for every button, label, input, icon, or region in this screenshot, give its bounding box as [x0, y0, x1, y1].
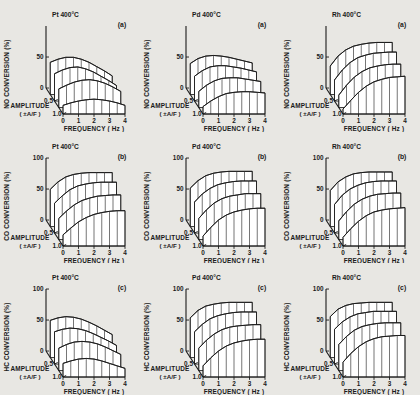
x-axis-title: FREQUENCY ( Hz ): [344, 125, 405, 132]
amplitude-tick-label: 1.0: [193, 373, 202, 380]
x-tick-label: 1: [357, 117, 361, 124]
amplitude-axis-title: AMPLITUDE: [10, 102, 50, 109]
x-tick-label: 2: [372, 380, 376, 387]
chart-panel-b3: 050100012340.51.0CO CONVERSION (%)Rh 400…: [280, 132, 420, 264]
amplitude-tick-label: 1.0: [333, 110, 342, 117]
y-tick-label: 50: [316, 53, 324, 60]
x-tick-label: 2: [92, 117, 96, 124]
amplitude-axis-title: AMPLITUDE: [10, 365, 50, 372]
x-axis-title: FREQUENCY ( Hz ): [64, 256, 125, 263]
chart-panel-a3: 050012340.51.0NO CONVERSION (%)Rh 400°C(…: [280, 0, 420, 132]
y-tick-label: 0: [180, 216, 184, 223]
catalyst-condition-label: Pd 400°C: [192, 274, 221, 281]
y-tick-label: 100: [173, 286, 184, 293]
catalyst-condition-label: Pd 400°C: [192, 143, 221, 150]
catalyst-condition-label: Pd 400°C: [192, 11, 221, 18]
y-tick-label: 50: [176, 185, 184, 192]
x-axis-title: FREQUENCY ( Hz ): [344, 256, 405, 263]
x-tick-label: 4: [263, 249, 267, 256]
y-tick-label: 50: [316, 317, 324, 324]
y-tick-label: 0: [180, 348, 184, 355]
amplitude-axis-title: AMPLITUDE: [150, 234, 190, 241]
x-tick-label: 4: [123, 117, 127, 124]
x-axis-title: FREQUENCY ( Hz ): [344, 388, 405, 395]
y-tick-label: 0: [40, 216, 44, 223]
chart-panel-c1: 050100012340.51.0HC CONVERSION (%)Pt 400…: [0, 263, 140, 395]
amplitude-axis-title: AMPLITUDE: [150, 102, 190, 109]
amplitude-axis-unit: ( ±A/F ): [20, 241, 41, 248]
y-axis-title: CO CONVERSION (%): [143, 171, 151, 240]
y-tick-label: 50: [176, 53, 184, 60]
x-tick-label: 1: [77, 380, 81, 387]
chart-panel-a1: 050012340.51.0NO CONVERSION (%)Pt 400°C(…: [0, 0, 140, 132]
x-tick-label: 0: [341, 249, 345, 256]
y-axis-title: NO CONVERSION (%): [3, 39, 11, 108]
x-tick-label: 1: [217, 249, 221, 256]
amplitude-tick-label: 1.0: [193, 241, 202, 248]
x-tick-label: 0: [61, 117, 65, 124]
y-tick-label: 100: [33, 154, 44, 161]
x-tick-label: 3: [108, 117, 112, 124]
panel-letter-label: (a): [398, 21, 406, 29]
amplitude-axis-title: AMPLITUDE: [290, 365, 330, 372]
chart-panel-c2: 050100012340.51.0HC CONVERSION (%)Pd 400…: [140, 263, 280, 395]
x-tick-label: 4: [403, 380, 407, 387]
y-axis-title: HC CONVERSION (%): [283, 303, 291, 372]
x-tick-label: 0: [201, 249, 205, 256]
x-tick-label: 0: [201, 380, 205, 387]
panel-letter-label: (b): [258, 153, 267, 161]
x-tick-label: 4: [403, 117, 407, 124]
panel-letter-label: (c): [398, 284, 406, 292]
y-tick-label: 100: [313, 286, 324, 293]
y-axis-title: HC CONVERSION (%): [143, 303, 151, 372]
x-tick-label: 4: [403, 249, 407, 256]
x-tick-label: 3: [248, 249, 252, 256]
amplitude-tick-label: 1.0: [333, 373, 342, 380]
y-tick-label: 0: [320, 84, 324, 91]
y-axis-title: CO CONVERSION (%): [3, 171, 11, 240]
x-tick-label: 2: [92, 380, 96, 387]
x-tick-label: 3: [108, 249, 112, 256]
y-tick-label: 100: [33, 286, 44, 293]
chart-panel-b1: 050100012340.51.0CO CONVERSION (%)Pt 400…: [0, 132, 140, 264]
x-tick-label: 0: [201, 117, 205, 124]
chart-panel-b2: 050100012340.51.0CO CONVERSION (%)Pd 400…: [140, 132, 280, 264]
amplitude-tick-label: 1.0: [53, 110, 62, 117]
amplitude-axis-title: AMPLITUDE: [10, 234, 50, 241]
x-tick-label: 0: [61, 380, 65, 387]
y-tick-label: 0: [320, 216, 324, 223]
y-tick-label: 50: [316, 185, 324, 192]
catalyst-condition-label: Pt 400°C: [52, 143, 79, 150]
y-axis-title: CO CONVERSION (%): [283, 171, 291, 240]
y-tick-label: 0: [320, 348, 324, 355]
amplitude-axis-unit: ( ±A/F ): [160, 110, 181, 117]
x-tick-label: 0: [341, 380, 345, 387]
amplitude-axis-unit: ( ±A/F ): [300, 110, 321, 117]
x-tick-label: 4: [263, 380, 267, 387]
x-tick-label: 2: [232, 249, 236, 256]
y-tick-label: 50: [36, 53, 44, 60]
x-axis-title: FREQUENCY ( Hz ): [64, 388, 125, 395]
y-tick-label: 100: [173, 154, 184, 161]
amplitude-axis-unit: ( ±A/F ): [300, 373, 321, 380]
panel-letter-label: (c): [118, 284, 126, 292]
catalyst-condition-label: Pt 400°C: [52, 274, 79, 281]
y-axis-title: NO CONVERSION (%): [283, 39, 291, 108]
y-tick-label: 0: [40, 84, 44, 91]
amplitude-axis-title: AMPLITUDE: [150, 365, 190, 372]
x-tick-label: 3: [108, 380, 112, 387]
y-tick-label: 0: [40, 348, 44, 355]
y-tick-label: 0: [180, 84, 184, 91]
x-tick-label: 1: [217, 380, 221, 387]
amplitude-tick-label: 1.0: [53, 241, 62, 248]
figure-panel-grid: 050012340.51.0NO CONVERSION (%)Pt 400°C(…: [0, 0, 420, 395]
catalyst-condition-label: Rh 400°C: [332, 11, 361, 18]
amplitude-tick-label: 1.0: [193, 110, 202, 117]
chart-panel-c3: 050100012340.51.0HC CONVERSION (%)Rh 400…: [280, 263, 420, 395]
amplitude-axis-unit: ( ±A/F ): [160, 241, 181, 248]
x-tick-label: 1: [77, 249, 81, 256]
amplitude-axis-unit: ( ±A/F ): [20, 110, 41, 117]
x-axis-title: FREQUENCY ( Hz ): [204, 388, 265, 395]
y-tick-label: 50: [36, 317, 44, 324]
y-tick-label: 50: [36, 185, 44, 192]
